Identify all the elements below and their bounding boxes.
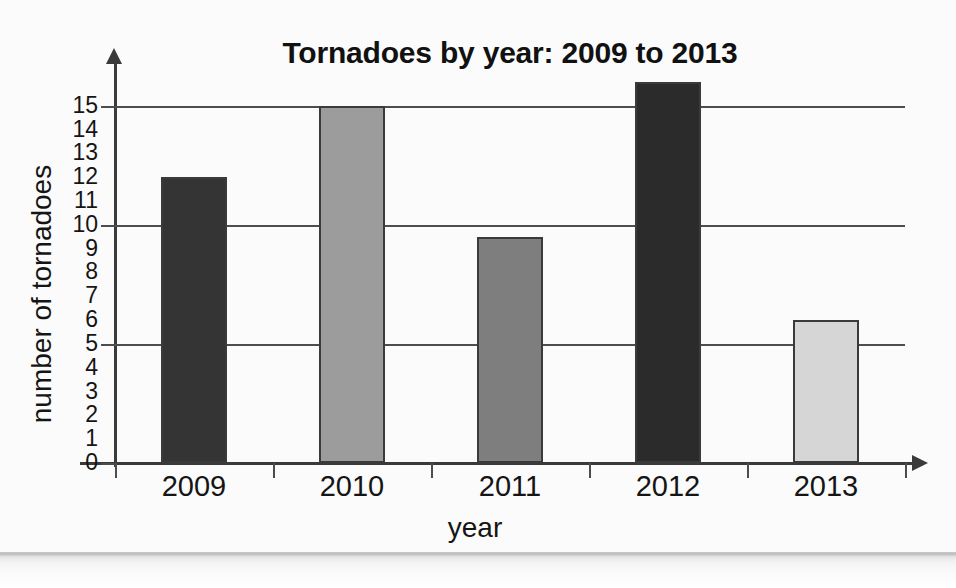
gridline-10 bbox=[115, 225, 905, 227]
x-tick-label-2010: 2010 bbox=[277, 472, 427, 501]
x-tick-label-2011: 2011 bbox=[435, 472, 585, 501]
x-axis-line bbox=[80, 462, 918, 465]
y-tick-label-5: 5 bbox=[52, 332, 98, 355]
x-tick-mark-4 bbox=[747, 463, 749, 478]
gridline-15 bbox=[115, 106, 905, 108]
x-tick-label-2009: 2009 bbox=[119, 472, 269, 501]
x-axis-title: year bbox=[325, 512, 625, 544]
y-tick-label-4: 4 bbox=[52, 356, 98, 379]
x-tick-label-2013: 2013 bbox=[751, 472, 901, 501]
x-tick-mark-1 bbox=[273, 463, 275, 478]
y-tick-label-8: 8 bbox=[52, 260, 98, 283]
scan-page-bottom-edge bbox=[0, 552, 956, 588]
y-tick-label-7: 7 bbox=[52, 284, 98, 307]
y-tick-label-12: 12 bbox=[52, 165, 98, 188]
y-tick-label-1: 1 bbox=[52, 427, 98, 450]
x-tick-mark-0 bbox=[115, 463, 117, 478]
x-tick-mark-5 bbox=[905, 463, 907, 478]
bar-2009 bbox=[161, 177, 227, 463]
x-axis-arrow-icon bbox=[912, 455, 928, 471]
y-tick-label-0: 0 bbox=[52, 451, 98, 474]
plot-area bbox=[115, 70, 905, 463]
bar-2012 bbox=[635, 82, 701, 463]
y-tick-label-15: 15 bbox=[52, 94, 98, 117]
y-tick-mark-5 bbox=[101, 344, 117, 346]
y-axis-title: number of tornadoes bbox=[26, 104, 58, 484]
y-tick-label-3: 3 bbox=[52, 380, 98, 403]
y-tick-mark-10 bbox=[101, 225, 117, 227]
bar-2010 bbox=[319, 106, 385, 463]
x-tick-label-2012: 2012 bbox=[593, 472, 743, 501]
y-axis-arrow-icon bbox=[106, 48, 122, 64]
y-tick-label-13: 13 bbox=[52, 141, 98, 164]
chart-title: Tornadoes by year: 2009 to 2013 bbox=[120, 36, 900, 70]
y-axis-line bbox=[114, 62, 117, 467]
y-tick-mark-15 bbox=[101, 106, 117, 108]
x-tick-mark-2 bbox=[431, 463, 433, 478]
y-tick-label-14: 14 bbox=[52, 118, 98, 141]
bar-2011 bbox=[477, 237, 543, 463]
bar-chart-figure: Tornadoes by year: 2009 to 2013 15141312… bbox=[0, 0, 956, 556]
y-tick-label-2: 2 bbox=[52, 403, 98, 426]
y-tick-label-10: 10 bbox=[52, 213, 98, 236]
y-tick-label-9: 9 bbox=[52, 237, 98, 260]
x-tick-mark-3 bbox=[589, 463, 591, 478]
y-tick-label-6: 6 bbox=[52, 308, 98, 331]
y-tick-label-11: 11 bbox=[52, 189, 98, 212]
bar-2013 bbox=[793, 320, 859, 463]
